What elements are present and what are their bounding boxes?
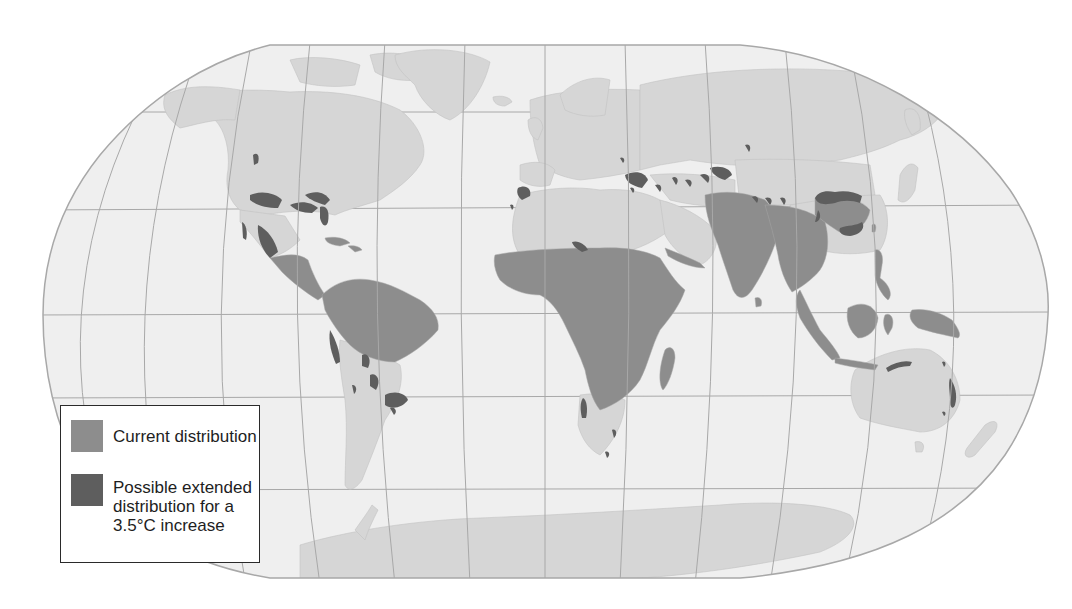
legend-item-extended: Possible extended distribution for a 3.5… [71,474,252,535]
legend-label-extended: Possible extended distribution for a 3.5… [113,474,252,535]
map-legend: Current distribution Possible extended d… [60,405,260,563]
legend-swatch-extended [71,474,103,506]
legend-swatch-current [71,420,103,452]
legend-label-current: Current distribution [113,420,257,446]
legend-item-current: Current distribution [71,420,257,452]
